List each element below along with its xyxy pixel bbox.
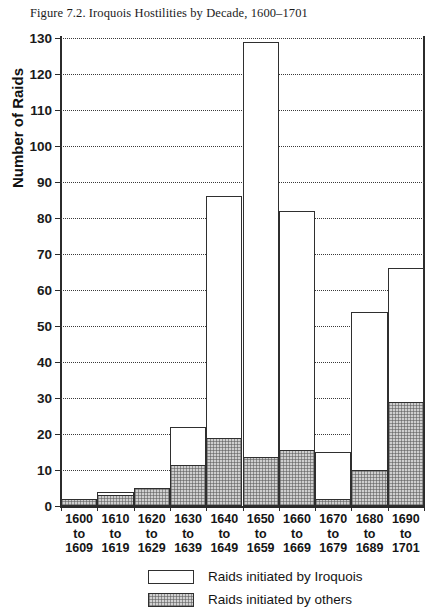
y-axis-title: Number of Raids xyxy=(9,0,26,188)
x-axis-tick-label-line: 1669 xyxy=(279,541,315,556)
x-axis-tick-label: 1670to1679 xyxy=(315,512,351,556)
y-axis-tick-label: 130 xyxy=(29,31,52,46)
y-axis-tick-mark xyxy=(55,290,60,291)
y-axis-tick-mark xyxy=(55,470,60,471)
x-axis-tick-label-line: 1649 xyxy=(206,541,242,556)
bar-segment-others[interactable] xyxy=(243,457,279,506)
x-axis-tick-label-line: to xyxy=(206,527,242,542)
bar-stack[interactable] xyxy=(134,488,170,506)
x-axis-tick-label: 1640to1649 xyxy=(206,512,242,556)
bar-stack[interactable] xyxy=(279,211,315,506)
bar-segment-others[interactable] xyxy=(351,470,387,506)
x-axis-tick-label: 1600to1609 xyxy=(61,512,97,556)
x-axis-tick-label-line: 1679 xyxy=(315,541,351,556)
bar-stack[interactable] xyxy=(206,196,242,506)
x-axis-tick-label-line: to xyxy=(315,527,351,542)
x-axis-tick-label-line: 1650 xyxy=(243,512,279,527)
legend-label: Raids initiated by Iroquois xyxy=(208,569,363,584)
y-axis-tick-mark xyxy=(55,254,60,255)
legend-label: Raids initiated by others xyxy=(208,592,352,607)
x-axis-tick-label: 1620to1629 xyxy=(134,512,170,556)
x-axis-tick-label-line: 1610 xyxy=(97,512,133,527)
y-axis-tick-label: 50 xyxy=(37,319,52,334)
y-axis-tick-label: 20 xyxy=(37,427,52,442)
legend-swatch-open xyxy=(148,570,194,584)
bar-stack[interactable] xyxy=(315,452,351,506)
y-axis-tick-label: 10 xyxy=(37,463,52,478)
x-axis-tick-label-line: to xyxy=(170,527,206,542)
x-axis-tick-mark xyxy=(351,506,352,511)
x-axis-tick-label: 1610to1619 xyxy=(97,512,133,556)
y-axis-tick-mark xyxy=(55,326,60,327)
y-axis-tick-mark xyxy=(55,218,60,219)
figure-caption: Figure 7.2. Iroquois Hostilities by Deca… xyxy=(30,6,308,21)
bar-segment-others[interactable] xyxy=(61,499,97,506)
x-axis-tick-label-line: 1619 xyxy=(97,541,133,556)
x-axis-tick-label-line: 1609 xyxy=(61,541,97,556)
x-axis-tick-mark xyxy=(134,506,135,511)
y-axis-tick-label: 40 xyxy=(37,355,52,370)
y-axis-tick-label: 30 xyxy=(37,391,52,406)
bar-segment-others[interactable] xyxy=(315,499,351,506)
x-axis-tick-mark xyxy=(279,506,280,511)
x-axis-tick-label-line: 1670 xyxy=(315,512,351,527)
bar-segment-others[interactable] xyxy=(170,465,206,506)
x-axis-tick-mark xyxy=(424,506,425,511)
bar-stack[interactable] xyxy=(170,427,206,506)
x-axis-tick-label-line: 1600 xyxy=(61,512,97,527)
y-axis-tick-mark xyxy=(55,110,60,111)
gridline xyxy=(61,38,424,39)
x-axis-tick-label-line: 1639 xyxy=(170,541,206,556)
bar-segment-others[interactable] xyxy=(97,495,133,506)
x-axis-tick-label-line: 1701 xyxy=(388,541,424,556)
bar-stack[interactable] xyxy=(388,268,424,506)
bar-stack[interactable] xyxy=(243,42,279,506)
x-axis-tick-label: 1630to1639 xyxy=(170,512,206,556)
x-axis-tick-mark xyxy=(61,506,62,511)
y-axis-tick-label: 80 xyxy=(37,211,52,226)
bar-segment-others[interactable] xyxy=(206,438,242,506)
x-axis-tick-label-line: 1629 xyxy=(134,541,170,556)
x-axis-tick-mark xyxy=(97,506,98,511)
x-axis-tick-label-line: 1660 xyxy=(279,512,315,527)
legend-item[interactable]: Raids initiated by others xyxy=(148,589,428,610)
figure-root: Figure 7.2. Iroquois Hostilities by Deca… xyxy=(0,0,439,610)
y-axis-tick-label: 120 xyxy=(29,67,52,82)
x-axis-tick-mark xyxy=(388,506,389,511)
x-axis-tick-label-line: 1630 xyxy=(170,512,206,527)
y-axis-tick-label: 110 xyxy=(30,103,52,118)
legend-swatch-shaded xyxy=(148,593,194,607)
x-axis-tick-label-line: to xyxy=(279,527,315,542)
bar-stack[interactable] xyxy=(61,499,97,506)
bar-segment-others[interactable] xyxy=(279,450,315,506)
x-axis-tick-label-line: 1659 xyxy=(243,541,279,556)
y-axis-tick-mark xyxy=(55,506,60,507)
x-axis-tick-label-line: to xyxy=(351,527,387,542)
x-axis-tick-label-line: 1690 xyxy=(388,512,424,527)
x-axis-tick-label-line: to xyxy=(388,527,424,542)
y-axis-tick-mark xyxy=(55,74,60,75)
y-axis-tick-label: 60 xyxy=(37,283,52,298)
bar-segment-others[interactable] xyxy=(388,402,424,506)
x-axis-tick-label-line: 1680 xyxy=(351,512,387,527)
x-axis-tick-mark xyxy=(170,506,171,511)
y-axis-tick-label: 0 xyxy=(44,499,52,514)
x-axis-tick-label-line: 1620 xyxy=(134,512,170,527)
bar-stack[interactable] xyxy=(97,492,133,506)
x-axis-tick-label: 1690to1701 xyxy=(388,512,424,556)
x-axis-tick-mark xyxy=(206,506,207,511)
y-axis-tick-mark xyxy=(55,362,60,363)
bar-segment-iroquois[interactable] xyxy=(243,42,279,506)
y-axis-tick-mark xyxy=(55,38,60,39)
legend-item[interactable]: Raids initiated by Iroquois xyxy=(148,566,428,587)
x-axis-tick-label: 1680to1689 xyxy=(351,512,387,556)
x-axis-tick-label-line: 1689 xyxy=(351,541,387,556)
x-axis-tick-label-line: to xyxy=(243,527,279,542)
x-axis-tick-label: 1650to1659 xyxy=(243,512,279,556)
y-axis-tick-mark xyxy=(55,398,60,399)
bar-segment-others[interactable] xyxy=(134,488,170,506)
x-axis-tick-label-line: 1640 xyxy=(206,512,242,527)
y-axis-tick-label: 100 xyxy=(29,139,52,154)
bar-stack[interactable] xyxy=(351,312,387,506)
x-axis-tick-label-line: to xyxy=(134,527,170,542)
